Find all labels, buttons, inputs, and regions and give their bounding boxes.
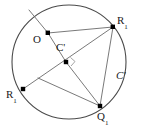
segment-cprime-to-q1: [66, 62, 100, 106]
label-point-o: O: [33, 34, 41, 45]
label-r1-top-sub: 1: [124, 23, 128, 31]
point-marker-cprime: [64, 60, 68, 64]
point-marker-r1-top: [111, 25, 115, 29]
label-q1-base: Q: [97, 110, 105, 122]
segment-o-to-r1top: [48, 27, 113, 33]
label-point-c-prime: C': [56, 42, 65, 53]
label-c-prime-mark: ': [63, 41, 65, 53]
point-marker-r1-left: [21, 87, 25, 91]
right-angle-marker-at-cprime: [71, 58, 76, 67]
label-r1-left-sub: 1: [13, 97, 17, 105]
label-point-o-text: O: [33, 33, 41, 45]
point-marker-o: [46, 31, 50, 35]
label-circle-c-prime-mark: ': [123, 69, 125, 81]
segment-group: [23, 10, 113, 106]
segment-r1top-to-q1: [100, 27, 113, 106]
label-q1-sub: 1: [105, 119, 109, 127]
label-circle-c-prime: C': [116, 70, 126, 81]
circle-c-prime: [12, 5, 126, 119]
label-point-q1: Q1: [97, 111, 108, 125]
label-point-r1-top: R1: [117, 15, 128, 29]
geometry-figure-container: O R1 C' R1 Q1 C': [0, 0, 143, 130]
label-point-r1-left: R1: [6, 89, 17, 103]
segment-q1-to-arc-left: [38, 78, 100, 106]
point-marker-q1: [98, 104, 102, 108]
